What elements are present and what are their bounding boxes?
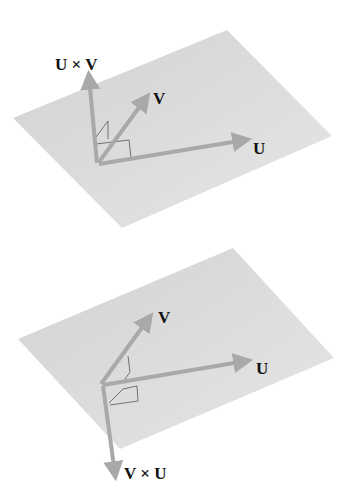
label-v-top: V	[153, 89, 166, 108]
label-u-bottom: U	[256, 359, 268, 378]
label-v-bottom: V	[158, 308, 171, 327]
label-u-cross-v: U × V	[55, 55, 98, 74]
top-panel: U × V V U	[13, 30, 332, 228]
label-v-cross-u: V × U	[124, 464, 166, 482]
label-u-top: U	[253, 139, 265, 158]
bottom-plane	[18, 248, 334, 449]
bottom-panel: V U V × U	[18, 248, 334, 482]
cross-product-diagram: U × V V U V U V × U	[0, 0, 346, 482]
